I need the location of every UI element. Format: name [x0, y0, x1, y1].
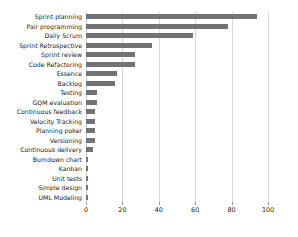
bar[interactable]	[86, 185, 88, 190]
x-axis: 020406080100	[86, 202, 268, 222]
bar-row[interactable]	[86, 126, 268, 136]
category-label: Sprint review	[0, 50, 82, 60]
bar-row[interactable]	[86, 41, 268, 51]
category-label: Sprint Retrospective	[0, 41, 82, 51]
x-tick-label: 0	[84, 206, 88, 214]
category-label: Pair programming	[0, 22, 82, 32]
category-axis-labels: Sprint planningPair programmingDaily Scr…	[0, 12, 82, 202]
bar[interactable]	[86, 195, 88, 200]
bar-row[interactable]	[86, 183, 268, 193]
bar-chart: Sprint planningPair programmingDaily Scr…	[0, 0, 298, 237]
bar-row[interactable]	[86, 164, 268, 174]
bar[interactable]	[86, 166, 88, 171]
bar[interactable]	[86, 62, 135, 67]
bar-row[interactable]	[86, 155, 268, 165]
bar[interactable]	[86, 147, 93, 152]
category-label: Simple design	[0, 183, 82, 193]
bar[interactable]	[86, 52, 135, 57]
category-label: Planning poker	[0, 126, 82, 136]
bar-row[interactable]	[86, 107, 268, 117]
bar-rows	[86, 12, 268, 202]
bar-row[interactable]	[86, 79, 268, 89]
bar-row[interactable]	[86, 88, 268, 98]
x-tick-label: 100	[262, 206, 274, 214]
bar-row[interactable]	[86, 22, 268, 32]
x-tick-label: 40	[155, 206, 163, 214]
bar-row[interactable]	[86, 145, 268, 155]
x-tick	[159, 202, 160, 205]
bar-row[interactable]	[86, 31, 268, 41]
category-label: Velocity Tracking	[0, 117, 82, 127]
x-tick-label: 60	[191, 206, 199, 214]
category-label: Backlog	[0, 79, 82, 89]
x-tick	[86, 202, 87, 205]
bar[interactable]	[86, 109, 95, 114]
bar[interactable]	[86, 81, 115, 86]
bar[interactable]	[86, 24, 228, 29]
bar[interactable]	[86, 176, 88, 181]
category-label: UML Modeling	[0, 193, 82, 203]
bar[interactable]	[86, 33, 193, 38]
bar-row[interactable]	[86, 60, 268, 70]
x-tick	[268, 202, 269, 205]
category-label: GQM evaluation	[0, 98, 82, 108]
bar-row[interactable]	[86, 12, 268, 22]
bar-row[interactable]	[86, 50, 268, 60]
bar[interactable]	[86, 90, 97, 95]
category-label: Daily Scrum	[0, 31, 82, 41]
x-tick-label: 80	[228, 206, 236, 214]
bar[interactable]	[86, 100, 97, 105]
x-tick-label: 20	[118, 206, 126, 214]
category-label: Kanban	[0, 164, 82, 174]
bar-row[interactable]	[86, 98, 268, 108]
gridline-100	[268, 12, 269, 202]
category-label: Essence	[0, 69, 82, 79]
category-label: Sprint planning	[0, 12, 82, 22]
x-tick	[232, 202, 233, 205]
bar[interactable]	[86, 14, 257, 19]
bar[interactable]	[86, 43, 152, 48]
category-label: Burndown chart	[0, 155, 82, 165]
bar-row[interactable]	[86, 193, 268, 203]
category-label: Versioning	[0, 136, 82, 146]
bar[interactable]	[86, 157, 88, 162]
bar[interactable]	[86, 119, 95, 124]
category-label: Continuous delivery	[0, 145, 82, 155]
plot-area	[86, 12, 268, 202]
category-label: Code Refactoring	[0, 60, 82, 70]
bar-row[interactable]	[86, 117, 268, 127]
bar[interactable]	[86, 138, 95, 143]
category-label: Testing	[0, 88, 82, 98]
category-label: Continuous feedback	[0, 107, 82, 117]
x-tick	[195, 202, 196, 205]
bar-row[interactable]	[86, 136, 268, 146]
category-label: Unit tests	[0, 174, 82, 184]
bar[interactable]	[86, 128, 95, 133]
x-tick	[122, 202, 123, 205]
bar-row[interactable]	[86, 69, 268, 79]
bar[interactable]	[86, 71, 117, 76]
bar-row[interactable]	[86, 174, 268, 184]
